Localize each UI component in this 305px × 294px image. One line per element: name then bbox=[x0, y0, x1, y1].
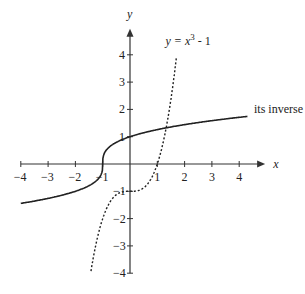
y-tick-label: −3 bbox=[113, 239, 126, 253]
y-tick-label: 4 bbox=[119, 48, 125, 62]
y-axis-label: y bbox=[126, 7, 133, 21]
x-tick-label: 4 bbox=[236, 170, 242, 184]
y-tick-label: 3 bbox=[119, 75, 125, 89]
inverse-curve bbox=[21, 116, 248, 203]
y-axis-arrow-icon bbox=[127, 29, 134, 37]
y-tick-label: −2 bbox=[113, 212, 126, 226]
y-tick-label: −4 bbox=[113, 266, 126, 280]
cubic-curve-label: y = x3 - 1 bbox=[164, 32, 210, 48]
x-axis-label: x bbox=[272, 157, 279, 171]
y-tick-label: 2 bbox=[119, 102, 125, 116]
function-inverse-plot: xy−4−3−2−112344321−1−2−3−4y = x3 - 1its … bbox=[0, 0, 305, 294]
x-tick-label: 1 bbox=[154, 170, 160, 184]
x-tick-label: −2 bbox=[68, 170, 81, 184]
x-axis-arrow-icon bbox=[257, 161, 265, 168]
x-tick-label: −4 bbox=[14, 170, 27, 184]
x-tick-label: −3 bbox=[41, 170, 54, 184]
inverse-curve-label: its inverse bbox=[254, 102, 303, 116]
x-tick-label: 2 bbox=[182, 170, 188, 184]
y-tick-label: −1 bbox=[113, 184, 126, 198]
y-tick-label: 1 bbox=[119, 130, 125, 144]
x-tick-label: 3 bbox=[209, 170, 215, 184]
